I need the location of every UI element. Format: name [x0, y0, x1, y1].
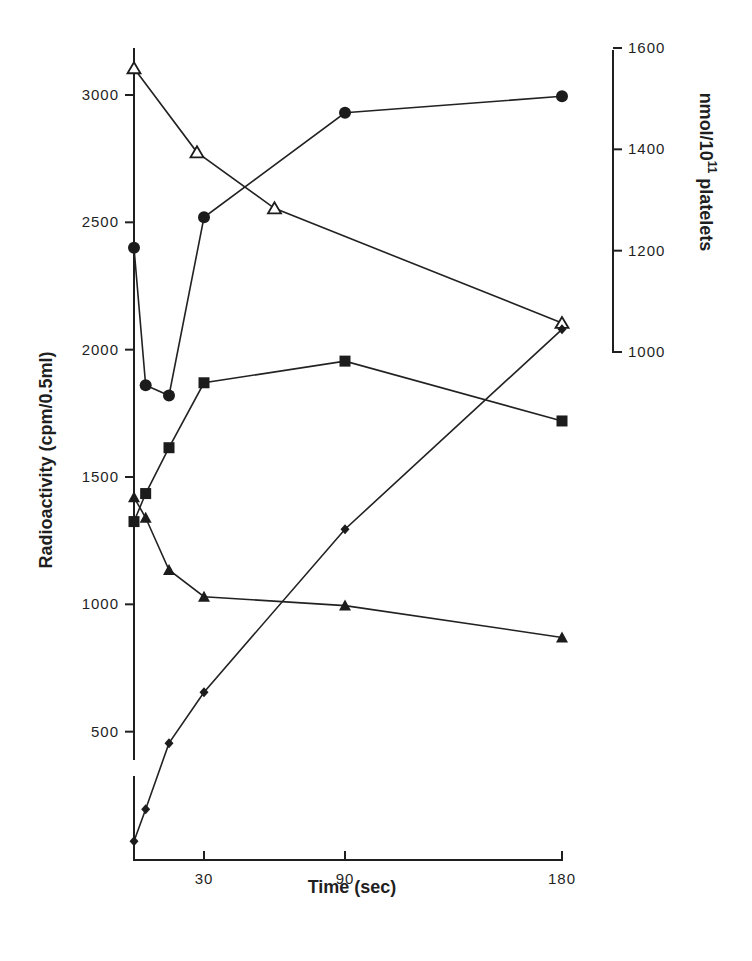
square-filled-marker — [199, 377, 210, 388]
triangle-filled-marker — [128, 491, 140, 502]
square-filled-marker — [340, 356, 351, 367]
y-axis-ticks: 50010001500200025003000 — [82, 86, 134, 740]
y2-axis-title-tail: platelets — [696, 173, 716, 251]
x-axis-title: Time (sec) — [308, 877, 397, 897]
circle-filled-marker — [140, 379, 152, 391]
x-tick-label: 180 — [548, 870, 576, 887]
axes: 50010001500200025003000 1000120014001600… — [82, 39, 666, 887]
y-tick-label: 2500 — [82, 213, 119, 230]
series-square-filled — [129, 356, 568, 527]
y-tick-label: 500 — [91, 723, 119, 740]
circle-filled-marker — [198, 211, 210, 223]
circle-filled-marker — [556, 90, 568, 102]
y2-axis-title-superscript: 11 — [705, 161, 719, 174]
chart-figure: 50010001500200025003000 1000120014001600… — [0, 0, 752, 961]
y-tick-label: 1000 — [82, 595, 119, 612]
series-line — [134, 329, 562, 841]
series-triangle-filled — [128, 491, 568, 642]
chart-canvas: 50010001500200025003000 1000120014001600… — [0, 0, 752, 961]
y-tick-label: 3000 — [82, 86, 119, 103]
y2-tick-label: 1000 — [628, 343, 665, 360]
y2-axis-ticks: 1000120014001600 — [613, 39, 665, 360]
y2-tick-label: 1600 — [628, 39, 665, 56]
series-line — [134, 96, 562, 395]
y-tick-label: 2000 — [82, 341, 119, 358]
triangle-open-marker — [128, 62, 141, 73]
y2-tick-label: 1200 — [628, 242, 665, 259]
square-filled-marker — [557, 415, 568, 426]
series-diamond-filled — [130, 324, 567, 846]
series-line — [134, 68, 562, 323]
triangle-open-marker — [268, 202, 281, 213]
series-line — [134, 497, 562, 637]
y2-tick-label: 1400 — [628, 140, 665, 157]
y2-axis-title: nmol/1011 platelets — [696, 93, 719, 252]
x-tick-label: 30 — [195, 870, 214, 887]
circle-filled-marker — [339, 107, 351, 119]
y-axis-title: Radioactivity (cpm/0.5ml) — [36, 351, 56, 568]
circle-filled-marker — [163, 390, 175, 402]
series-layer — [128, 62, 569, 846]
diamond-filled-marker — [141, 804, 150, 814]
series-line — [134, 361, 562, 521]
series-triangle-open — [128, 62, 569, 328]
series-circle-filled — [128, 90, 568, 401]
diamond-filled-marker — [130, 836, 139, 846]
triangle-filled-marker — [140, 512, 152, 523]
square-filled-marker — [129, 516, 140, 527]
y2-axis-title-main: nmol/10 — [696, 93, 716, 161]
triangle-open-marker — [191, 146, 204, 157]
y-tick-label: 1500 — [82, 468, 119, 485]
circle-filled-marker — [128, 242, 140, 254]
triangle-filled-marker — [163, 564, 175, 575]
square-filled-marker — [164, 442, 175, 453]
square-filled-marker — [140, 488, 151, 499]
